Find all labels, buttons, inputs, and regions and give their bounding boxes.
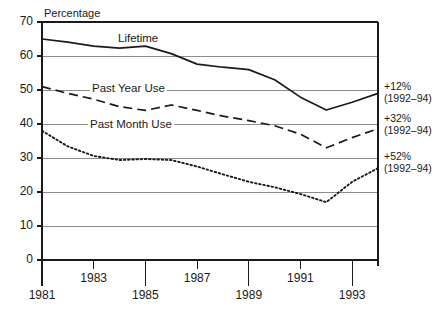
y-tick-label-50: 50 — [0, 82, 33, 96]
x-tick-label-1991: 1991 — [270, 271, 330, 285]
y-tick-label-70: 70 — [0, 14, 33, 28]
y-tick-label-40: 40 — [0, 116, 33, 130]
y-tick-label-10: 10 — [0, 218, 33, 232]
annotation-period: (1992–94) — [384, 124, 432, 136]
x-tick-label-1985: 1985 — [115, 288, 175, 302]
x-tick-label-1987: 1987 — [167, 271, 227, 285]
annotation-value: +12% — [384, 80, 432, 92]
x-tick-label-1989: 1989 — [219, 288, 279, 302]
y-tick-label-20: 20 — [0, 184, 33, 198]
annotation-value: +52% — [384, 150, 432, 162]
x-tick-label-1983: 1983 — [64, 271, 124, 285]
annotation-past-year-use: +32%(1992–94) — [384, 112, 432, 136]
chart-plot-svg — [0, 0, 438, 312]
series-line-past-month-use — [42, 131, 378, 202]
series-label-lifetime: Lifetime — [116, 32, 160, 44]
x-tick-label-1993: 1993 — [322, 288, 382, 302]
series-label-past-year-use: Past Year Use — [90, 82, 167, 94]
annotation-lifetime: +12%(1992–94) — [384, 80, 432, 104]
series-line-lifetime — [42, 39, 378, 110]
annotation-period: (1992–94) — [384, 162, 432, 174]
x-tick-label-1981: 1981 — [12, 288, 72, 302]
y-tick-label-0: 0 — [0, 252, 33, 266]
y-tick-label-60: 60 — [0, 48, 33, 62]
annotation-past-month-use: +52%(1992–94) — [384, 150, 432, 174]
chart-container: Percentage 01020304050607019831987199119… — [0, 0, 438, 312]
annotation-value: +32% — [384, 112, 432, 124]
series-label-past-month-use: Past Month Use — [88, 118, 174, 130]
y-tick-label-30: 30 — [0, 150, 33, 164]
annotation-period: (1992–94) — [384, 92, 432, 104]
